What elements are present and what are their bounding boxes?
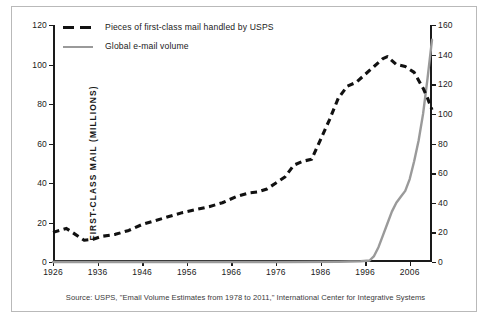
- left-tick-label: 20: [37, 219, 47, 228]
- right-tick-label: 0: [438, 258, 443, 267]
- right-tick: [432, 84, 436, 85]
- legend-item-first-class-mail: Pieces of first-class mail handled by US…: [62, 22, 274, 33]
- x-tick-label: 1966: [221, 268, 241, 277]
- plot-area: 020406080100120 020406080100120140160 19…: [53, 25, 432, 262]
- legend-label-first-class-mail: Pieces of first-class mail handled by US…: [105, 23, 274, 32]
- chart-figure: FIRST-CLASS MAIL (MILLIONS) E-MAIL MESSA…: [0, 0, 491, 326]
- right-tick: [432, 173, 436, 174]
- x-tick-label: 1946: [132, 268, 152, 277]
- right-tick: [432, 262, 436, 263]
- right-tick-label: 120: [438, 80, 453, 89]
- x-tick-label: 1986: [311, 268, 331, 277]
- right-tick-label: 60: [438, 169, 448, 178]
- right-tick-label: 20: [438, 228, 448, 237]
- right-tick-label: 140: [438, 51, 453, 60]
- right-tick-label: 160: [438, 21, 453, 30]
- left-tick-label: 80: [37, 100, 47, 109]
- source-note: Source: USPS, "Email Volume Estimates fr…: [0, 293, 491, 302]
- right-tick-label: 80: [438, 140, 448, 149]
- left-tick-label: 0: [42, 258, 47, 267]
- x-tick: [410, 262, 411, 266]
- right-tick-label: 100: [438, 110, 453, 119]
- x-tick-label: 2006: [400, 268, 420, 277]
- series-canvas: [53, 25, 432, 262]
- right-tick: [432, 203, 436, 204]
- x-tick-label: 1996: [355, 268, 375, 277]
- x-tick-label: 1956: [177, 268, 197, 277]
- right-tick: [432, 55, 436, 56]
- legend-item-email-volume: Global e-mail volume: [62, 41, 274, 52]
- email-volume-line: [53, 40, 432, 262]
- right-tick: [432, 25, 436, 26]
- left-tick-label: 120: [32, 21, 47, 30]
- solid-line-icon: [62, 41, 96, 52]
- dashed-line-icon: [62, 22, 96, 33]
- chart-legend: Pieces of first-class mail handled by US…: [62, 22, 274, 52]
- x-tick-label: 1976: [266, 268, 286, 277]
- right-tick: [432, 232, 436, 233]
- left-tick-label: 60: [37, 140, 47, 149]
- right-tick: [432, 144, 436, 145]
- first-class-mail-line: [53, 57, 432, 241]
- right-tick-label: 40: [438, 199, 448, 208]
- right-tick: [432, 114, 436, 115]
- x-tick-label: 1936: [88, 268, 108, 277]
- left-tick-label: 40: [37, 179, 47, 188]
- left-tick-label: 100: [32, 61, 47, 70]
- x-tick-label: 1926: [43, 268, 63, 277]
- x-tick: [365, 262, 366, 266]
- legend-label-email-volume: Global e-mail volume: [105, 42, 189, 51]
